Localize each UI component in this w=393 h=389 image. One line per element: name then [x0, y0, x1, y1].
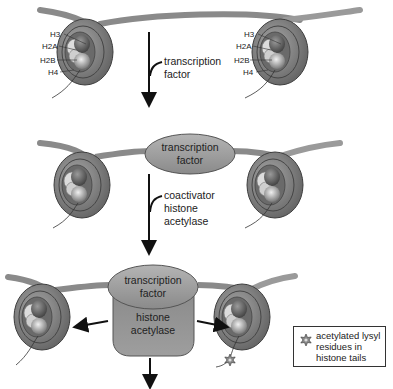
legend-line: histone tails — [316, 352, 380, 363]
label-h3: H3 — [244, 30, 255, 39]
dna-strand — [285, 10, 360, 20]
nucleosome-right — [214, 284, 270, 350]
label-h3: H3 — [50, 30, 61, 39]
nucleosome-left — [54, 152, 110, 218]
hat-label: acetylase — [131, 324, 176, 336]
nucleosome-right — [252, 19, 308, 85]
dna-strand — [55, 285, 110, 290]
arrow-label: transcription — [164, 55, 221, 67]
label-h2b: H2B — [234, 56, 250, 65]
acetyl-star-icon — [225, 354, 235, 366]
legend-text: acetylated lysyl residues in histone tai… — [316, 330, 380, 363]
label-h4: H4 — [243, 68, 254, 77]
legend-line: acetylated lysyl — [316, 330, 380, 341]
tf-label: transcription — [124, 274, 181, 286]
dna-strand — [280, 143, 340, 156]
label-h2a: H2A — [42, 42, 58, 51]
arrow-branch — [150, 196, 162, 212]
hat-label: histone — [136, 311, 170, 323]
acetyl-star-icon — [298, 332, 314, 348]
legend-line: residues in — [316, 341, 380, 352]
arrow-branch — [150, 62, 162, 76]
tf-label: transcription — [161, 141, 218, 153]
legend: acetylated lysyl residues in histone tai… — [293, 326, 386, 367]
label-h2b: H2B — [40, 56, 56, 65]
arrow-label: coactivator — [164, 189, 215, 201]
arrow-label: histone — [164, 202, 198, 214]
arrow-left — [80, 321, 108, 326]
label-h4: H4 — [48, 68, 59, 77]
dna-strand — [250, 276, 295, 290]
tf-label: factor — [140, 287, 167, 299]
label-h2a: H2A — [236, 42, 252, 51]
tf-label: factor — [177, 154, 204, 166]
arrow-label: factor — [164, 68, 191, 80]
nucleosome-right — [247, 152, 303, 218]
arrow-label: acetylase — [164, 215, 209, 227]
dna-strand — [95, 151, 150, 157]
nucleosome-left — [57, 19, 113, 85]
nucleosome-left — [14, 284, 70, 350]
